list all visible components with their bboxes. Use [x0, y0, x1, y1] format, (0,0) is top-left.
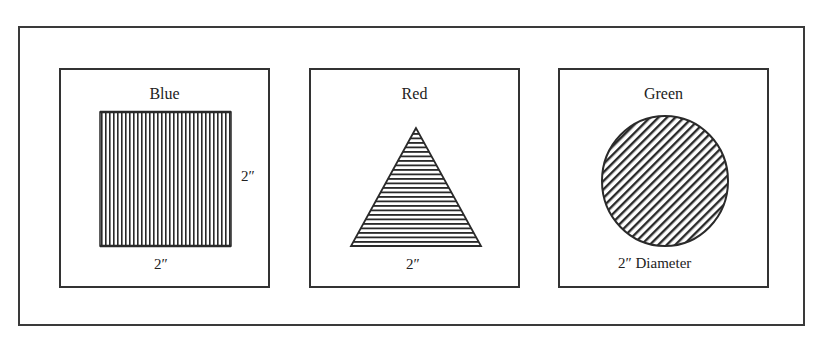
square-bottom-dimension: 2″ [154, 256, 168, 273]
panel-blue-square: Blue 2″ 2″ [59, 68, 270, 288]
panel-green-circle: Green 2″ Diameter [558, 68, 769, 288]
panel-red-triangle: Red 2″ [309, 68, 520, 288]
triangle-base-dimension: 2″ [406, 256, 420, 273]
square-side-dimension: 2″ [241, 168, 255, 185]
circle-diameter-label: 2″ Diameter [618, 255, 691, 272]
